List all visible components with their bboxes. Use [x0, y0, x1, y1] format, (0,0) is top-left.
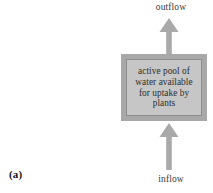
panel-label: (a) [9, 168, 22, 180]
outflow-arrow-up-icon [158, 17, 180, 57]
active-pool-box: active pool of water available for uptak… [121, 54, 207, 121]
inflow-label: inflow [131, 174, 211, 185]
figure-panel-a: outflow active pool of water available f… [0, 0, 213, 193]
active-pool-label: active pool of water available for uptak… [131, 66, 197, 108]
outflow-label: outflow [131, 2, 211, 13]
inflow-arrow-up-icon [158, 122, 180, 170]
active-pool-box-inner: active pool of water available for uptak… [126, 59, 202, 116]
